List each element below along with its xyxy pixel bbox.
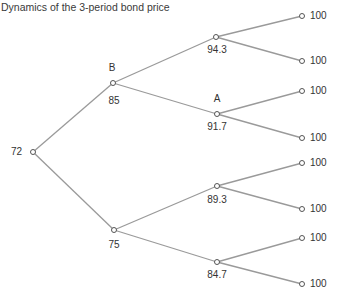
terminal-value: 100 xyxy=(310,86,327,96)
tree-nodes xyxy=(31,14,305,287)
node-dd xyxy=(215,260,220,265)
node-down xyxy=(112,228,117,233)
node-terminal xyxy=(300,89,305,94)
node-terminal xyxy=(300,136,305,141)
terminal-value: 100 xyxy=(310,233,327,243)
node-b-tag: B xyxy=(109,63,116,73)
node-terminal xyxy=(300,14,305,19)
terminal-value: 100 xyxy=(310,11,327,21)
node-root xyxy=(31,150,36,155)
node-dd-value: 84.7 xyxy=(207,270,226,280)
node-b xyxy=(111,81,116,86)
tree-edges xyxy=(33,16,302,284)
node-terminal xyxy=(300,282,305,287)
node-down-value: 75 xyxy=(108,240,119,250)
terminal-value: 100 xyxy=(310,158,327,168)
node-a xyxy=(215,112,220,117)
node-a-tag: A xyxy=(214,94,221,104)
node-du xyxy=(215,184,220,189)
node-terminal xyxy=(300,207,305,212)
root-value: 72 xyxy=(11,147,22,157)
terminal-value: 100 xyxy=(310,279,327,289)
node-terminal xyxy=(300,161,305,166)
binomial-tree xyxy=(0,0,345,302)
node-uu-value: 94.3 xyxy=(207,45,226,55)
node-uu xyxy=(214,35,219,40)
terminal-value: 100 xyxy=(310,204,327,214)
node-terminal xyxy=(300,59,305,64)
node-du-value: 89.3 xyxy=(207,195,226,205)
node-terminal xyxy=(300,236,305,241)
terminal-value: 100 xyxy=(310,56,327,66)
terminal-value: 100 xyxy=(310,133,327,143)
node-b-value: 85 xyxy=(108,96,119,106)
node-a-value: 91.7 xyxy=(207,122,226,132)
